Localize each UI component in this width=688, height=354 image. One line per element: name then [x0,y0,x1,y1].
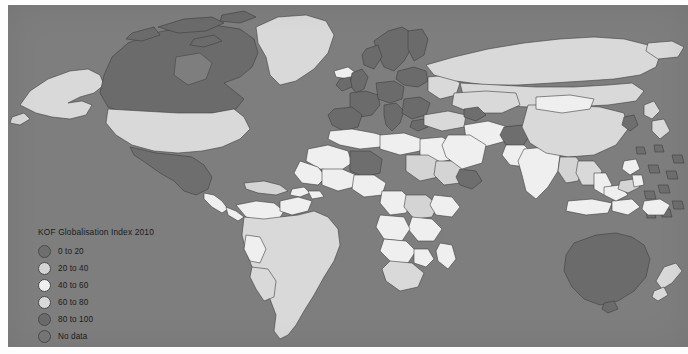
legend-title: KOF Globalisation Index 2010 [38,227,178,237]
world-map: .l{stroke:#3f3f3f;stroke-width:.6;stroke… [8,5,688,347]
legend-item-60-to-80[interactable]: 60 to 80 [38,294,178,311]
legend-label-40-to-60: 40 to 60 [58,281,88,290]
legend-swatch-80-to-100 [38,313,51,326]
legend-label-0-to-20: 0 to 20 [58,247,84,256]
legend-label-20-to-40: 20 to 40 [58,264,88,273]
map-legend: KOF Globalisation Index 2010 0 to 20 20 … [38,227,178,345]
legend-swatch-0-to-20 [38,245,51,258]
legend-swatch-no-data [38,330,51,343]
legend-item-40-to-60[interactable]: 40 to 60 [38,277,178,294]
legend-item-no-data[interactable]: No data [38,328,178,345]
legend-label-80-to-100: 80 to 100 [58,315,93,324]
map-figure: .l{stroke:#3f3f3f;stroke-width:.6;stroke… [0,0,688,354]
legend-item-80-to-100[interactable]: 80 to 100 [38,311,178,328]
legend-swatch-20-to-40 [38,262,51,275]
legend-swatch-40-to-60 [38,279,51,292]
legend-label-60-to-80: 60 to 80 [58,298,88,307]
legend-item-20-to-40[interactable]: 20 to 40 [38,260,178,277]
legend-label-no-data: No data [58,332,87,341]
legend-swatch-60-to-80 [38,296,51,309]
legend-item-0-to-20[interactable]: 0 to 20 [38,243,178,260]
